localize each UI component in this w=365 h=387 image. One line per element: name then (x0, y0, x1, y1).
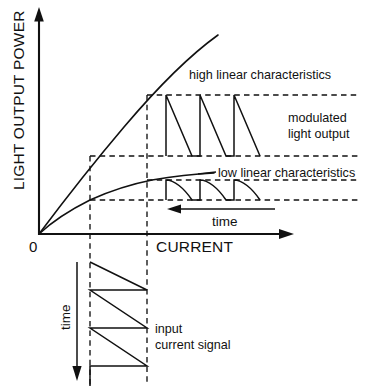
origin-label: 0 (29, 238, 37, 255)
annotation-high-linear: high linear characteristics (189, 68, 331, 82)
input-current-signal-plot: time input current signal (58, 262, 231, 386)
x-axis-label: CURRENT (156, 238, 234, 255)
y-axis-label: LIGHT OUTPUT POWER (10, 10, 27, 190)
time-vertical-label: time (58, 304, 73, 330)
annotation-modulated-line2: light output (288, 127, 350, 141)
curve-low-linear (39, 173, 214, 234)
time-horizontal-label: time (212, 214, 238, 229)
waveform-modulated-low-linearity (166, 180, 260, 200)
waveform-modulated-high-linearity (166, 95, 260, 156)
annotation-modulated-line1: modulated (288, 111, 347, 125)
annotation-input-line2: current signal (155, 338, 231, 352)
laser-diode-linearity-diagram: LIGHT OUTPUT POWER CURRENT 0 (0, 0, 365, 387)
time-axis-horizontal: time (167, 205, 275, 230)
time-horizontal-arrowhead (167, 205, 181, 214)
input-sawtooth-waveform (90, 262, 147, 386)
x-axis-arrowhead (279, 229, 294, 239)
annotation-low-linear: low linear characteristics (218, 166, 355, 180)
y-axis (34, 7, 44, 235)
curve-high-linear (39, 35, 218, 234)
diagram-canvas: LIGHT OUTPUT POWER CURRENT 0 (0, 0, 365, 387)
time-vertical-arrowhead (72, 366, 81, 381)
annotation-input-line1: input (155, 322, 183, 336)
y-axis-arrowhead (34, 7, 44, 22)
